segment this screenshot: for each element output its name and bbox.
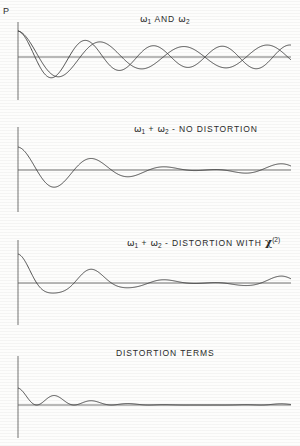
- waveform-figure: P ω1 AND ω2ω1 + ω2 - NO DISTORTIONω1 + ω…: [0, 0, 300, 446]
- curve-distortion: [18, 388, 291, 405]
- plot-area-distortion-terms: [0, 0, 300, 446]
